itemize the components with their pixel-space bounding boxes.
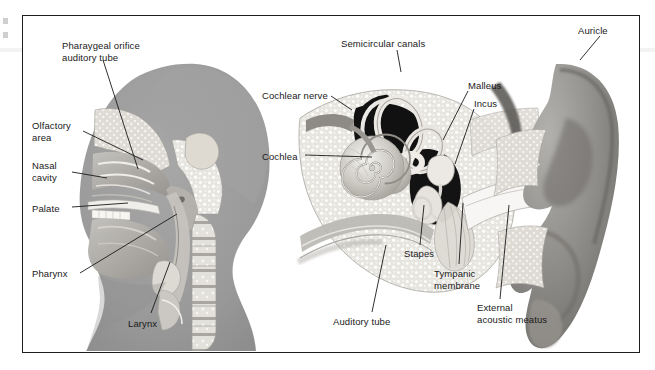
label-nasal-cavity: Nasal cavity [32,160,57,183]
label-auricle: Auricle [578,25,608,37]
page-edge-mark-bottom [3,32,8,38]
label-semicircular-canals: Semicircular canals [341,38,425,50]
label-cochlea: Cochlea [262,151,298,163]
label-tympanic-membrane: Tympanic membrane [434,268,480,291]
label-incus: Incus [474,98,497,110]
label-pharynx: Pharynx [32,268,68,280]
figure-root: Pharaygeal orifice auditory tubeOlfactor… [0,0,655,370]
label-external-acoustic-meatus: External acoustic meatus [477,302,547,325]
label-larynx: Larynx [128,318,157,330]
label-palate: Palate [32,203,60,215]
page-edge-mark-top [3,18,8,24]
label-pharyngeal-orifice: Pharaygeal orifice auditory tube [62,40,140,63]
label-auditory-tube: Auditory tube [333,316,390,328]
label-olfactory-area: Olfactory area [32,120,71,143]
label-malleus: Malleus [468,80,501,92]
label-cochlear-nerve: Cochlear nerve [262,90,328,102]
label-stapes: Stapes [404,248,434,260]
figure-frame [22,15,640,353]
